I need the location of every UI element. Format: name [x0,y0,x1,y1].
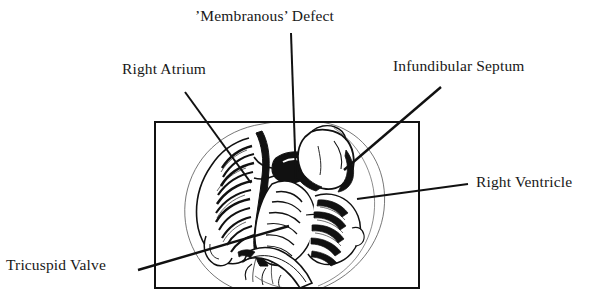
figure-page: ’Membranous’ Defect Right Atrium Infundi… [0,0,608,302]
label-tricuspid-valve: Tricuspid Valve [6,257,106,273]
label-right-ventricle: Right Ventricle [476,174,572,190]
label-membranous-defect: ’Membranous’ Defect [195,8,334,24]
label-infundibular-septum: Infundibular Septum [393,58,525,74]
label-right-atrium: Right Atrium [122,61,206,77]
